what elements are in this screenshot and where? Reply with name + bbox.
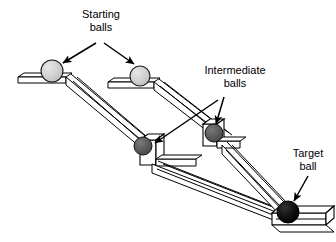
label-starting-balls-line1: Starting: [63, 8, 139, 21]
arrow-starting-right: [104, 43, 134, 64]
label-intermediate-balls-line2: balls: [188, 77, 282, 90]
arrow-target: [294, 176, 308, 201]
intermediate-ball-right: [205, 124, 223, 142]
label-starting-balls-line2: balls: [63, 21, 139, 34]
figure-canvas: Starting balls Intermediate balls Target…: [0, 0, 336, 242]
label-target-ball-line2: ball: [283, 160, 333, 173]
label-starting-balls: Starting balls: [63, 8, 139, 33]
label-intermediate-balls-line1: Intermediate: [188, 64, 282, 77]
label-intermediate-balls: Intermediate balls: [188, 64, 282, 89]
label-target-ball: Target ball: [283, 147, 333, 172]
starting-ball-right: [130, 66, 150, 86]
arrow-starting-left: [63, 43, 96, 63]
apparatus-illustration: [0, 0, 336, 242]
target-ball: [277, 201, 299, 223]
starting-ball-left: [41, 60, 63, 82]
label-target-ball-line1: Target: [283, 147, 333, 160]
intermediate-ball-left: [134, 137, 152, 155]
